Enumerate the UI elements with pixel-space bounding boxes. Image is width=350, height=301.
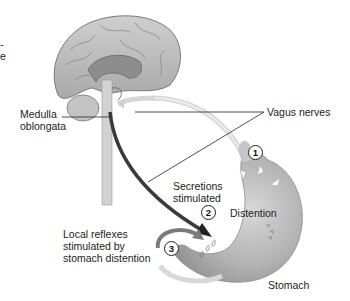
step-3-badge: 3: [164, 241, 179, 256]
label-local-reflexes-line-3: stomach distention: [63, 252, 151, 264]
label-local-reflexes: Local reflexes stimulated by stomach dis…: [63, 228, 151, 264]
cropped-text-fragment-1: -: [0, 38, 4, 50]
label-medulla-line-2: oblongata: [20, 120, 66, 132]
step-2-badge: 2: [201, 205, 216, 220]
label-stomach: Stomach: [268, 279, 309, 291]
label-medulla: Medulla oblongata: [20, 108, 66, 132]
brain: [54, 16, 180, 205]
cropped-text-fragment-2: e: [0, 50, 6, 62]
step-1-badge: 1: [248, 145, 263, 160]
label-secretions-stimulated: Secretions stimulated: [173, 180, 223, 204]
efferent-vagus-nerve: [110, 112, 205, 232]
label-local-reflexes-line-1: Local reflexes: [63, 228, 151, 240]
label-medulla-line-1: Medulla: [20, 108, 66, 120]
label-secretions-line-2: stimulated: [173, 192, 223, 204]
label-distention: Distention: [230, 207, 277, 219]
label-local-reflexes-line-2: stimulated by: [63, 240, 151, 252]
diagram-figure: [0, 0, 350, 301]
label-secretions-line-1: Secretions: [173, 180, 223, 192]
label-vagus-nerves: Vagus nerves: [267, 106, 330, 118]
